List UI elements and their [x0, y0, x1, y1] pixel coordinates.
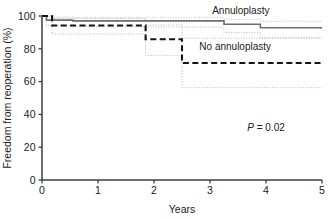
confidence-bands: [42, 16, 322, 88]
x-axis-title: Years: [169, 203, 195, 215]
y-axis-title: Freedom from reoperation (%): [1, 27, 13, 168]
y-axis-tick-label: 40: [24, 108, 36, 120]
x-axis-tick-label: 5: [319, 184, 325, 196]
x-axis-tick-label: 0: [39, 184, 45, 196]
x-axis-tick-label: 3: [207, 184, 213, 196]
y-axis-tick-label: 0: [30, 174, 36, 186]
x-axis-tick-label: 1: [95, 184, 101, 196]
series-curve-1: [42, 16, 322, 63]
series-label-1: No annuloplasty: [199, 41, 271, 52]
kaplan-meier-figure: 020406080100012345 Years Freedom from re…: [0, 0, 333, 219]
y-axis-tick-label: 60: [24, 75, 36, 87]
y-axis-tick-label: 80: [24, 43, 36, 55]
series-label-0: Annuloplasty: [212, 5, 269, 16]
y-axis-tick-label: 100: [18, 10, 36, 22]
axis-tick-labels: 020406080100012345: [18, 10, 325, 196]
axes: [39, 16, 323, 184]
x-axis-tick-label: 4: [263, 184, 269, 196]
p-value-annotation: P = 0.02: [247, 122, 285, 133]
y-axis-tick-label: 20: [24, 141, 36, 153]
p-value-number: = 0.02: [254, 122, 285, 133]
x-axis-tick-label: 2: [151, 184, 157, 196]
chart-canvas: 020406080100012345 Years Freedom from re…: [0, 0, 333, 219]
series-curves: [42, 16, 322, 63]
